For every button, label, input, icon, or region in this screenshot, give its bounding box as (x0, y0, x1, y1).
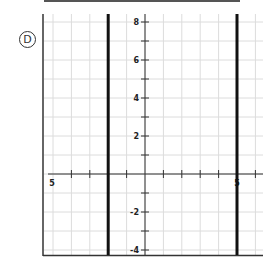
grid-lines (44, 14, 263, 255)
y-tick-label: -4 (130, 246, 139, 255)
x-tick-label: 5 (49, 179, 55, 188)
axes (48, 14, 263, 255)
y-tick-label: 2 (133, 132, 139, 141)
coordinate-graph: 8642-2-455 (0, 0, 274, 269)
y-tick-label: -2 (130, 208, 139, 217)
vertical-lines (108, 14, 237, 255)
y-tick-label: 8 (133, 18, 139, 27)
y-tick-label: 4 (133, 94, 139, 103)
y-tick-label: 6 (133, 56, 139, 65)
